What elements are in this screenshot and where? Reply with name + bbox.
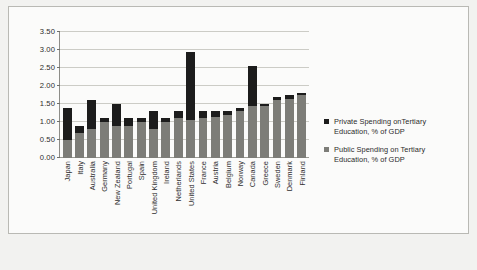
x-axis-label-slot: Belgium — [221, 159, 233, 231]
bar-stack — [248, 66, 257, 158]
x-axis-tick-label: Spain — [137, 161, 146, 180]
bar-stack — [137, 118, 146, 158]
bar-segment-public — [199, 118, 208, 158]
bar-segment-public — [161, 122, 170, 158]
x-axis-label-slot: Norway — [234, 159, 246, 231]
x-axis-label-slot: Finland — [296, 159, 308, 231]
x-axis-label-slot: Germany — [98, 159, 110, 231]
legend-swatch-public — [324, 147, 329, 152]
y-axis-tick-label: 1.50 — [40, 99, 55, 108]
bar-column[interactable] — [147, 32, 159, 158]
bar-segment-private — [174, 111, 183, 118]
bar-column[interactable] — [73, 32, 85, 158]
legend-swatch-private — [324, 119, 329, 124]
x-axis-label-slot: Netherlands — [172, 159, 184, 231]
bar-segment-private — [87, 100, 96, 129]
bar-segment-public — [297, 95, 306, 158]
x-axis-label-slot: Denmark — [283, 159, 295, 231]
bar-segment-public — [137, 122, 146, 158]
bar-column[interactable] — [123, 32, 135, 158]
bar-segment-public — [124, 126, 133, 158]
bar-column[interactable] — [110, 32, 122, 158]
bar-stack — [285, 95, 294, 158]
bar-segment-public — [63, 140, 72, 158]
bar-stack — [100, 118, 109, 158]
x-axis-tick-label: Sweden — [273, 161, 282, 188]
bar-segment-public — [211, 117, 220, 158]
bar-stack — [124, 118, 133, 158]
legend-item[interactable]: Private Spending onTertiaryEducation, % … — [324, 117, 459, 136]
bar-stack — [87, 100, 96, 158]
bar-segment-private — [75, 126, 84, 133]
x-axis-tick-label: Norway — [235, 161, 244, 186]
bar-column[interactable] — [209, 32, 221, 158]
y-axis-tick-label: 0.50 — [40, 135, 55, 144]
bar-stack — [161, 118, 170, 158]
bar-column[interactable] — [221, 32, 233, 158]
bar-stack — [174, 111, 183, 158]
legend-item[interactable]: Public Spending on TertiaryEducation, % … — [324, 145, 459, 164]
bar-column[interactable] — [283, 32, 295, 158]
bar-column[interactable] — [197, 32, 209, 158]
x-axis-tick-label: United Kingdom — [149, 161, 158, 214]
bar-column[interactable] — [135, 32, 147, 158]
bar-segment-private — [112, 104, 121, 126]
bar-segment-public — [285, 99, 294, 158]
x-axis-label-slot: United Kingdom — [147, 159, 159, 231]
x-axis-tick-label: United States — [186, 161, 195, 206]
x-axis-tick-label: Belgium — [223, 161, 232, 188]
x-axis-label-slot: Greece — [259, 159, 271, 231]
bar-stack — [75, 126, 84, 158]
bar-column[interactable] — [61, 32, 73, 158]
bar-segment-public — [149, 129, 158, 158]
x-axis-label-slot: Japan — [61, 159, 73, 231]
bar-segment-private — [149, 111, 158, 129]
x-axis-tick-label: Greece — [260, 161, 269, 186]
bar-segment-private — [63, 108, 72, 140]
bar-stack — [112, 104, 121, 158]
bar-segment-public — [112, 126, 121, 158]
y-axis-tick-label: 1.00 — [40, 117, 55, 126]
bar-segment-public — [100, 122, 109, 158]
legend-label: Private Spending onTertiaryEducation, % … — [334, 117, 426, 136]
chart-legend: Private Spending onTertiaryEducation, % … — [324, 117, 459, 173]
bar-segment-public — [75, 133, 84, 158]
bar-stack — [186, 52, 195, 158]
x-axis-tick-label: Austria — [211, 161, 220, 184]
x-axis-tick-label: Australia — [87, 161, 96, 190]
x-axis-tick-label: Japan — [63, 161, 72, 181]
x-axis-labels: JapanItalyAustraliaGermanyNew ZealandPor… — [60, 159, 309, 231]
bar-column[interactable] — [160, 32, 172, 158]
x-axis-label-slot: France — [197, 159, 209, 231]
bar-column[interactable] — [271, 32, 283, 158]
bar-series-group — [60, 32, 309, 158]
bar-column[interactable] — [259, 32, 271, 158]
bar-segment-public — [273, 100, 282, 158]
x-axis-label-slot: United States — [184, 159, 196, 231]
bar-column[interactable] — [246, 32, 258, 158]
bar-stack — [199, 111, 208, 158]
x-axis-tick-label: Portugal — [124, 161, 133, 189]
bar-column[interactable] — [172, 32, 184, 158]
bar-stack — [260, 104, 269, 158]
x-axis-tick-label: Netherlands — [174, 161, 183, 201]
bar-column[interactable] — [296, 32, 308, 158]
bar-stack — [63, 108, 72, 158]
bar-segment-public — [236, 111, 245, 158]
x-axis-tick-label: New Zealand — [112, 161, 121, 205]
bar-segment-public — [248, 106, 257, 158]
bar-stack — [236, 108, 245, 158]
x-axis-label-slot: Canada — [246, 159, 258, 231]
bar-column[interactable] — [98, 32, 110, 158]
x-axis-label-slot: Sweden — [271, 159, 283, 231]
bar-segment-public — [260, 106, 269, 158]
bar-column[interactable] — [234, 32, 246, 158]
bar-stack — [211, 111, 220, 158]
bar-segment-private — [186, 52, 195, 120]
bar-column[interactable] — [184, 32, 196, 158]
bar-segment-public — [87, 129, 96, 158]
bar-segment-public — [186, 120, 195, 158]
bar-column[interactable] — [86, 32, 98, 158]
y-axis-tick-label: 0.00 — [40, 153, 55, 162]
x-axis-tick-label: France — [198, 161, 207, 184]
